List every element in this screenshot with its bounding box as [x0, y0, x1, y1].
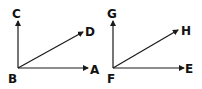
- point-label-a: A: [90, 63, 100, 77]
- vertex-label-b: B: [8, 72, 17, 86]
- point-label-h: H: [181, 24, 191, 38]
- right-angle-figure: GHEF: [107, 7, 193, 86]
- point-label-d: D: [85, 25, 95, 39]
- geometry-diagram: CDABGHEF: [0, 0, 202, 89]
- ray-fh-arrow-icon: [113, 30, 178, 68]
- point-label-c: C: [12, 7, 21, 21]
- point-label-g: G: [107, 7, 117, 21]
- ray-bd-arrow-icon: [18, 32, 83, 68]
- left-angle-figure: CDAB: [8, 7, 100, 86]
- angle-figures: CDABGHEF: [8, 7, 193, 86]
- point-label-e: E: [185, 62, 193, 76]
- vertex-label-f: F: [107, 72, 115, 86]
